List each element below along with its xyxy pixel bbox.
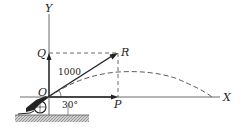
q-arrowhead-icon (47, 53, 52, 60)
angle-arc (60, 91, 62, 97)
r-label: R (120, 46, 129, 59)
x-axis-label: X (222, 91, 232, 104)
angle-label: 30° (62, 100, 78, 110)
projectile-diagram: Y X Q P R 1000 O 30° (0, 0, 244, 131)
q-label: Q (37, 47, 46, 60)
y-axis-label: Y (45, 2, 54, 15)
ground-hatch (15, 115, 89, 122)
r-arrowhead-icon (110, 53, 119, 60)
p-label: P (113, 98, 122, 111)
cannon-icon (18, 96, 48, 114)
r-vector (40, 56, 112, 102)
vector-magnitude: 1000 (58, 67, 81, 77)
